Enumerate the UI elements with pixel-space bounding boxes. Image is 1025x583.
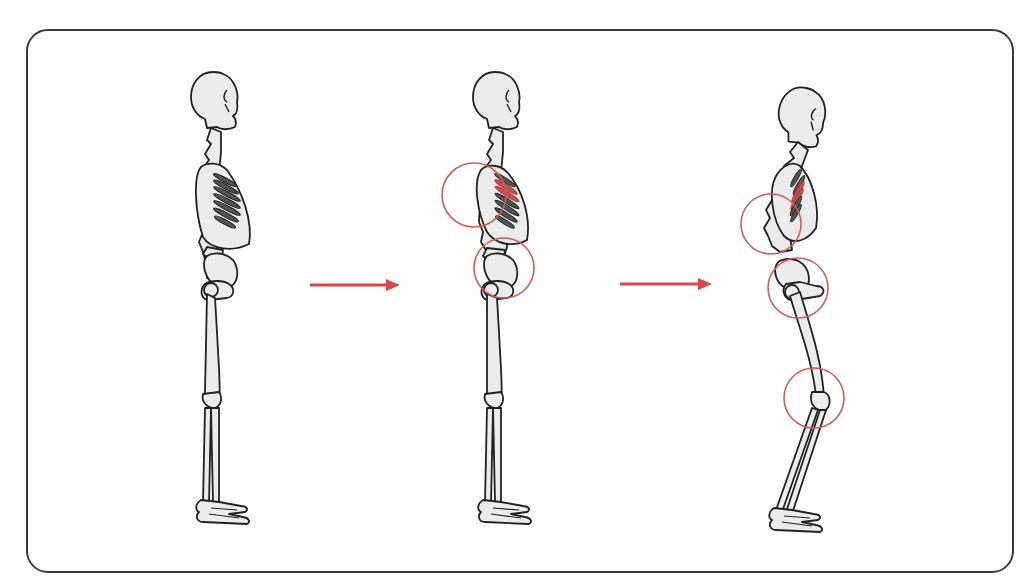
arrow-2 bbox=[620, 278, 712, 290]
skeleton-stage-1 bbox=[191, 72, 250, 524]
skeleton-diagram bbox=[0, 0, 1025, 583]
arrow-1 bbox=[310, 279, 400, 291]
